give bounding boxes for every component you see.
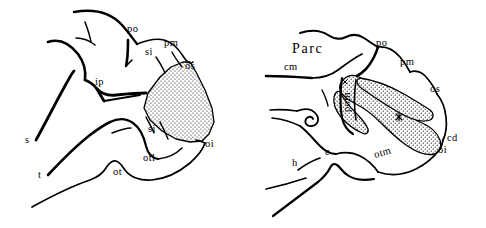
label-si-upper-left: si [145,46,153,57]
label-otm-right: otm [373,145,393,160]
label-po-left: po [127,23,138,34]
left-brain-diagram [32,11,214,207]
label-pm-left: pm [164,37,178,48]
right-olfactory-stem-b [272,118,300,126]
label-os-left: os [185,60,195,71]
right-contour-medial [312,54,362,78]
label-oi-left: oi [205,138,214,149]
right-olfactory-spiral [297,109,318,126]
label-ot-left: ot [113,166,122,177]
label-parc-right: Parc [292,41,323,56]
right-olfactory-stem [270,110,297,111]
left-stroke-t [48,122,110,175]
label-t-left: t [38,169,41,180]
label-po-right: po [376,37,387,48]
right-ventral-c [300,126,336,154]
label-pm-right: pm [400,56,414,67]
left-sulcus-si-upper [156,57,165,73]
label-s-left: s [25,134,30,145]
left-sulcus-po [126,40,128,66]
label-ip-left: ip [95,76,104,87]
left-stroke-s [36,71,74,140]
left-sulcus-mark-2 [76,38,95,45]
label-si-lower-left: si [148,123,156,134]
figure-root: po pm si os ip si oi otl ot s t Parc cm … [0,0,486,228]
right-brain-diagram [266,31,446,216]
left-lobe-ip-arc [48,41,85,80]
label-os-right: os [430,83,440,94]
right-sulcus-mark-1 [322,90,328,106]
label-cd-right: cd [447,132,458,143]
left-lobe-otl-b [158,148,182,159]
label-c-right: c [325,146,330,157]
label-cm-right: cm [284,61,298,72]
label-pom-right: pom [341,92,352,112]
anatomical-diagram-canvas: po pm si os ip si oi otl ot s t Parc cm … [0,0,486,228]
label-oi-right: oi [438,144,447,155]
left-sulcus-mark-3 [112,128,131,133]
label-otl-left: otl [143,152,155,163]
right-curve-h [298,158,320,170]
right-lobe-os [437,94,446,140]
right-base-contour [273,164,374,216]
right-sulcus-po [357,47,378,76]
right-base-contour-b [266,178,306,189]
right-line-cm [266,76,312,78]
label-h-right: h [292,157,298,168]
